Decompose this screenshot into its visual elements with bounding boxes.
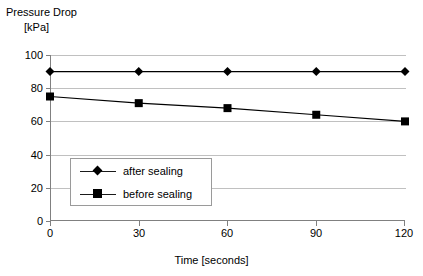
pressure-drop-line-chart: Pressure Drop [kPa] 100 80 60 40 20 0 0 … [0, 0, 423, 276]
legend-item-after-sealing: after sealing [71, 160, 213, 184]
data-point-marker [46, 93, 54, 101]
legend-label-before-sealing: before sealing [123, 188, 192, 201]
data-point-marker [135, 99, 143, 107]
data-point-marker [224, 104, 232, 112]
legend-item-before-sealing: before sealing [71, 183, 213, 207]
data-point-marker [312, 67, 321, 76]
x-axis-title: Time [seconds] [0, 254, 423, 267]
data-point-marker [401, 117, 409, 125]
series-layer [0, 0, 423, 276]
markers-before-sealing [46, 93, 409, 126]
legend: after sealing before sealing [70, 158, 212, 206]
diamond-marker-icon [93, 166, 103, 176]
legend-label-after-sealing: after sealing [123, 165, 183, 178]
data-point-marker [223, 67, 232, 76]
square-marker-icon [93, 189, 102, 198]
data-point-marker [134, 67, 143, 76]
data-point-marker [312, 111, 320, 119]
data-point-marker [401, 67, 410, 76]
data-point-marker [46, 67, 55, 76]
